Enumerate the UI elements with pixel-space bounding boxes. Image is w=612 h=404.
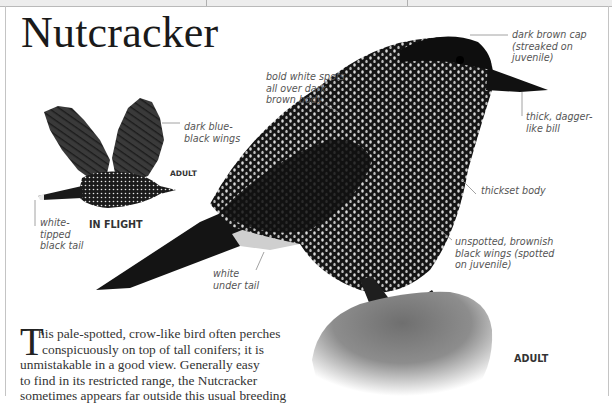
perched-eye	[456, 56, 464, 64]
flight-age-label: ADULT	[170, 169, 197, 178]
flight-tail	[38, 186, 82, 200]
annotation-flight-tail: white- tipped black tail	[40, 217, 84, 252]
annotation-cap: dark brown cap (streaked on juvenile)	[512, 29, 587, 64]
body-line: conspicuously on top of tall conifers; i…	[20, 342, 320, 358]
body-line: his pale-spotted, crow-like bird often p…	[20, 326, 320, 342]
annotation-wings: unspotted, brownish black wings (spotted…	[455, 236, 554, 271]
annotation-flight-wings: dark blue- black wings	[184, 121, 240, 144]
flight-body	[78, 172, 176, 208]
annotation-bill: thick, dagger- like bill	[526, 111, 592, 134]
body-line: to find in its restricted range, the Nut…	[20, 373, 320, 389]
flight-wing-right	[112, 98, 164, 182]
perched-bill	[486, 68, 548, 92]
rock-perch	[312, 292, 492, 396]
body-line: sometimes appears far outside this usual…	[20, 388, 320, 404]
flying-nutcracker-illustration	[38, 98, 176, 208]
annotation-spots: bold white spots all over dark brown bod…	[266, 71, 345, 106]
annotation-body: thickset body	[481, 185, 546, 197]
species-description: his pale-spotted, crow-like bird often p…	[20, 326, 320, 404]
body-line: unmistakable in a good view. Generally e…	[20, 357, 320, 373]
flight-caption: IN FLIGHT	[89, 219, 143, 230]
perched-age-label: ADULT	[514, 353, 548, 364]
annotation-under-tail: white under tail	[213, 268, 259, 291]
flight-wing-left	[44, 106, 110, 180]
